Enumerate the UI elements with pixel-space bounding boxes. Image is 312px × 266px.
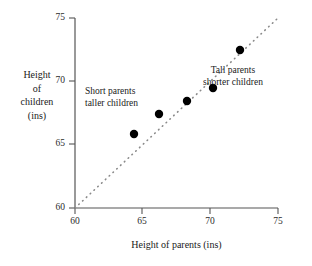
y-tick-label-60: 60 bbox=[43, 203, 65, 213]
y-axis-title-line-2: of bbox=[6, 82, 68, 96]
x-tick-label-60: 60 bbox=[63, 217, 87, 227]
data-point bbox=[155, 110, 163, 118]
x-axis-title: Height of parents (ins) bbox=[75, 239, 278, 251]
y-axis-title: Height of children (ins) bbox=[6, 68, 68, 122]
data-point bbox=[236, 46, 244, 54]
data-point bbox=[130, 130, 138, 138]
x-tick-label-70: 70 bbox=[198, 217, 222, 227]
annotation-short-parents: Short parents taller children bbox=[85, 85, 138, 109]
annotation-short-parents-line-1: Short parents bbox=[85, 85, 138, 97]
x-tick-label-65: 65 bbox=[130, 217, 154, 227]
data-points bbox=[130, 46, 244, 138]
annotation-short-parents-line-2: taller children bbox=[85, 97, 138, 109]
annotation-tall-parents-line-1: Tall parents bbox=[203, 64, 263, 76]
y-tick-label-75: 75 bbox=[43, 13, 65, 23]
annotation-tall-parents: Tall parents shorter children bbox=[203, 64, 263, 88]
scatter-chart: 75 70 65 60 60 65 70 75 Height of childr… bbox=[0, 0, 312, 266]
y-axis-title-line-1: Height bbox=[6, 68, 68, 82]
reference-line-diagonal bbox=[75, 18, 278, 208]
annotation-tall-parents-line-2: shorter children bbox=[203, 76, 263, 88]
y-tick-label-65: 65 bbox=[43, 139, 65, 149]
y-axis-title-line-4: (ins) bbox=[6, 109, 68, 123]
y-axis-title-line-3: children bbox=[6, 95, 68, 109]
data-point bbox=[183, 97, 191, 105]
x-tick-label-75: 75 bbox=[266, 217, 290, 227]
